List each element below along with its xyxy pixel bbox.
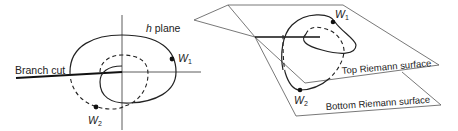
w1-label: W1 [178,52,192,65]
w2-surface-label: W2 [294,94,308,107]
w1-point [170,57,175,62]
top-riemann-surface-label: Top Riemann surface [341,57,431,76]
w2-point [94,105,99,110]
bottom-riemann-surface-label: Bottom Riemann surface [325,94,430,112]
outer-loop-dashed [70,72,124,109]
w2-label: W2 [88,114,102,127]
branch-cut-label: Branch cut [15,64,65,76]
top-riemann-surface [194,5,439,83]
w1-surface-label: W1 [335,8,349,21]
top-surface-left-edge [228,5,255,37]
riemann-surface-diagram: h plane Branch cut W1 W2 W1 W2 Top Ri [0,0,458,131]
bottom-sheet-solid-lower [285,72,330,90]
riemann-surfaces-diagram: W1 W2 Top Riemann surface Bottom Riemann… [194,5,441,116]
w1-surface-point [331,20,336,25]
h-plane-diagram: h plane Branch cut W1 W2 [15,15,201,130]
w2-surface-point [298,88,303,93]
outer-loop-solid [70,35,176,103]
h-plane-label: h plane [146,22,181,34]
top-sheet-loop [282,15,356,70]
